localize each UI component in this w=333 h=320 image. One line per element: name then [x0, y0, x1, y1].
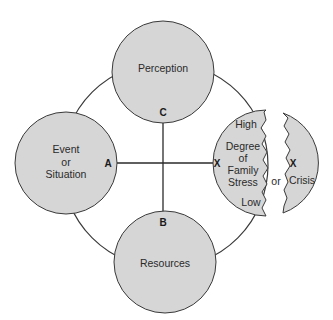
event-line-3: Situation [46, 168, 87, 180]
crisis-node: X Crisis [283, 113, 318, 213]
event-line-2: or [61, 156, 71, 168]
or-connector: or [271, 175, 281, 187]
stress-low: Low [241, 196, 261, 208]
perception-node: Perception C [112, 21, 214, 123]
stress-node: High Degree of Family Stress Low X [213, 110, 268, 216]
perception-label: Perception [138, 62, 188, 74]
event-line-1: Event [53, 143, 80, 155]
crisis-label: Crisis [289, 174, 315, 186]
resources-node: Resources B [114, 211, 216, 313]
event-node: Event or Situation A [15, 112, 117, 214]
stress-line-4: Stress [228, 176, 258, 188]
letter-b: B [159, 217, 166, 228]
abcx-diagram: Perception C Event or Situation A Resour… [0, 0, 333, 320]
crisis-letter-x: X [290, 158, 297, 169]
stress-line-3: Family [228, 164, 260, 176]
letter-c: C [159, 107, 166, 118]
stress-line-1: Degree [226, 140, 261, 152]
stress-line-2: of [239, 152, 248, 164]
resources-label: Resources [140, 257, 190, 269]
stress-letter-x: X [214, 158, 221, 169]
letter-a: A [104, 158, 111, 169]
stress-high: High [235, 118, 257, 130]
